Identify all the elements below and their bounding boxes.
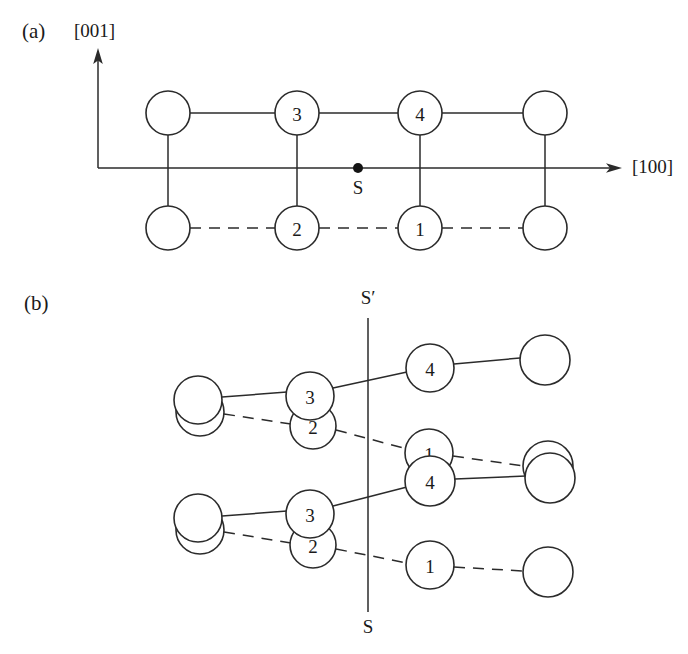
bond-dashed <box>224 414 291 424</box>
bond-solid <box>333 487 407 506</box>
bond-solid <box>222 392 287 397</box>
atom-circle <box>525 453 575 503</box>
bond-solid <box>222 511 287 516</box>
atom-circle <box>520 335 570 385</box>
atom-circle <box>146 91 190 135</box>
panel-b-bonds <box>222 358 526 571</box>
panel-a: (a) [001] [100] <box>22 19 673 250</box>
atom-circle <box>146 206 190 250</box>
atom-circle <box>523 206 567 250</box>
panel-b-atoms-middle: 1 4 <box>405 429 575 506</box>
bond-solid <box>455 476 526 479</box>
atom-circle <box>523 547 573 597</box>
panel-b: (b) S′ S <box>24 287 575 637</box>
atom-label: 4 <box>425 472 435 493</box>
axis-001: [001] <box>74 20 115 168</box>
atom-circle <box>174 494 222 542</box>
bond-solid <box>454 358 520 364</box>
mirror-bottom-label: S <box>363 616 374 637</box>
site-marker-label: S <box>353 177 364 198</box>
atom-label: 4 <box>415 104 425 125</box>
atom-label: 2 <box>292 219 302 240</box>
mirror-plane: S′ S <box>361 287 376 637</box>
atom-label: 1 <box>425 556 435 577</box>
atom-label: 3 <box>292 104 302 125</box>
atom-label: 3 <box>305 387 315 408</box>
axis-001-label: [001] <box>74 20 115 41</box>
bond-solid <box>333 372 407 388</box>
atom-circle <box>174 376 222 424</box>
crystal-structure-diagram: (a) [001] [100] <box>0 0 688 654</box>
atom-circle <box>523 91 567 135</box>
axis-100-label: [100] <box>632 156 673 177</box>
figure-root: (a) [001] [100] <box>0 0 688 654</box>
atom-label: 1 <box>415 219 425 240</box>
panel-a-label: (a) <box>22 19 45 43</box>
bond-dashed <box>454 567 524 571</box>
site-dot-icon <box>353 163 363 173</box>
panel-b-label: (b) <box>24 291 49 315</box>
bond-dashed <box>224 532 291 543</box>
bond-dashed <box>453 456 524 466</box>
axis-100: [100] <box>98 156 673 177</box>
panel-b-atoms-lower: 2 3 1 <box>174 490 573 597</box>
atom-label: 4 <box>425 359 435 380</box>
bond-dashed <box>336 430 407 449</box>
mirror-top-label: S′ <box>361 287 376 308</box>
panel-b-atoms-upper: 2 3 4 <box>174 335 570 449</box>
bond-dashed <box>336 549 407 563</box>
site-marker-s: S <box>353 163 364 198</box>
atom-label: 3 <box>305 505 315 526</box>
